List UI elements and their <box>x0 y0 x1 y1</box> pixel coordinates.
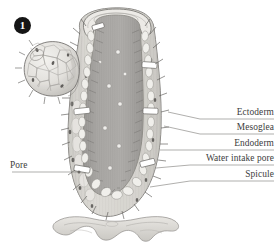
sponge-anatomy-figure: 1 Ectoderm Mesoglea Endoderm Water intak… <box>0 0 277 250</box>
label-mesoglea: Mesoglea <box>237 122 274 133</box>
label-spicule: Spicule <box>245 169 274 180</box>
label-water-intake-pore: Water intake pore <box>206 153 274 164</box>
label-layer: Ectoderm Mesoglea Endoderm Water intake … <box>0 0 277 250</box>
label-endoderm: Endoderm <box>234 138 274 149</box>
label-pore: Pore <box>10 160 28 171</box>
label-ectoderm: Ectoderm <box>237 107 274 118</box>
